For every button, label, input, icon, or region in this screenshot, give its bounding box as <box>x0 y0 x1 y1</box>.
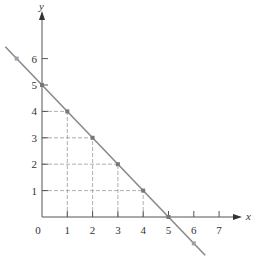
x-axis-label: x <box>245 210 251 222</box>
x-tick-label: 4 <box>140 224 146 236</box>
y-tick-label: 6 <box>32 53 38 65</box>
y-axis-label: y <box>38 0 44 12</box>
data-point-marker <box>116 162 120 166</box>
x-tick-label: 1 <box>65 224 71 236</box>
y-tick-label: 4 <box>32 105 38 117</box>
y-tick-label: 2 <box>32 158 38 170</box>
y-tick-label: 5 <box>32 79 38 91</box>
x-tick-label: 5 <box>166 224 172 236</box>
data-point-marker <box>141 189 145 193</box>
x-tick-label: 3 <box>115 224 121 236</box>
origin-label: 0 <box>35 224 41 236</box>
x-tick-label: 7 <box>216 224 222 236</box>
dashed-guide-lines <box>42 111 143 217</box>
y-tick-label: 3 <box>32 132 38 144</box>
data-point-marker <box>167 215 171 219</box>
x-tick-label: 6 <box>191 224 197 236</box>
data-point-marker <box>65 109 69 113</box>
chart-plot: y x 0 1234567123456 <box>0 0 255 259</box>
axis-ticks: 1234567123456 <box>32 53 223 236</box>
data-point-marker <box>192 241 196 245</box>
data-point-marker <box>91 136 95 140</box>
data-point-marker <box>15 57 19 61</box>
y-tick-label: 1 <box>32 185 38 197</box>
x-axis-arrow-icon <box>233 214 242 220</box>
y-axis-arrow-icon <box>39 11 45 20</box>
x-tick-label: 2 <box>90 224 96 236</box>
data-point-marker <box>40 83 44 87</box>
